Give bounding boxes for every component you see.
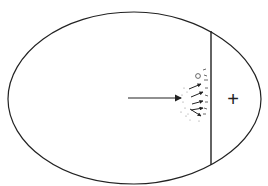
small-arrow <box>189 84 201 89</box>
small-arrow <box>192 101 203 104</box>
partition-receptors <box>196 69 208 114</box>
diagram-canvas: + <box>0 0 268 186</box>
small-arrows <box>189 84 203 116</box>
small-arrow <box>191 108 203 110</box>
small-arrow <box>190 109 201 116</box>
small-arrow <box>191 92 203 97</box>
particles <box>180 87 199 121</box>
plus-sign: + <box>227 88 239 110</box>
